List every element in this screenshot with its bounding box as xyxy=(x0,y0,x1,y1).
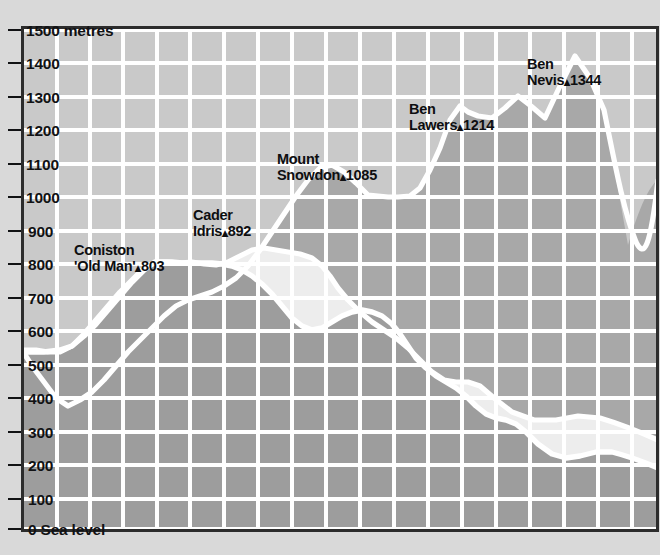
y-tick-700: 700 xyxy=(28,291,53,307)
y-tick-1200: 1200 xyxy=(26,123,60,139)
y-tick-800: 800 xyxy=(28,257,53,273)
peak-label-ben-lawers: Ben Lawers▴1214 xyxy=(409,102,494,134)
peak-name-line2-row: Lawers▴1214 xyxy=(409,118,494,134)
y-tick-100: 100 xyxy=(28,492,53,508)
y-tick-1400: 1400 xyxy=(26,56,60,72)
peak-name-line2: Idris xyxy=(193,223,222,239)
peak-label-mount-snowdon: Mount Snowdon▴1085 xyxy=(277,152,377,184)
peak-height: 1214 xyxy=(463,117,494,133)
y-tick-300: 300 xyxy=(28,425,53,441)
peak-height: 1344 xyxy=(570,72,601,88)
peak-name-line2-row: Idris▴892 xyxy=(193,224,251,240)
peak-label-ben-nevis: Ben Nevis▴1344 xyxy=(527,57,601,89)
peak-name-line2-row: Nevis▴1344 xyxy=(527,73,601,89)
peak-name-line2: 'Old Man' xyxy=(74,258,135,274)
y-tick-0-sea-level: 0 Sea level xyxy=(28,522,105,538)
peak-name-line2: Snowdon xyxy=(277,167,340,183)
y-tick-1300: 1300 xyxy=(26,90,60,106)
peak-label-cader-idris: Cader Idris▴892 xyxy=(193,208,251,240)
peak-name-line1: Ben xyxy=(409,102,494,118)
peak-label-coniston-old-man: Coniston 'Old Man'▴803 xyxy=(74,243,164,275)
peak-name-line1: Mount xyxy=(277,152,377,168)
figure-root: 1500 metres 1400 1300 1200 1100 1000 900… xyxy=(0,0,660,555)
peak-name-line2-row: Snowdon▴1085 xyxy=(277,168,377,184)
peak-height: 803 xyxy=(141,258,164,274)
peak-height: 1085 xyxy=(346,167,377,183)
y-tick-1500: 1500 metres xyxy=(26,23,113,39)
peak-name-line1: Coniston xyxy=(74,243,164,259)
y-tick-1100: 1100 xyxy=(26,157,59,173)
y-tick-1000: 1000 xyxy=(26,190,60,206)
y-tick-200: 200 xyxy=(28,458,53,474)
y-tick-900: 900 xyxy=(28,224,53,240)
peak-height: 892 xyxy=(228,223,251,239)
peak-name-line2: Lawers xyxy=(409,117,457,133)
y-tick-600: 600 xyxy=(28,324,53,340)
peak-name-line1: Cader xyxy=(193,208,251,224)
peak-name-line2-row: 'Old Man'▴803 xyxy=(74,259,164,275)
peak-name-line2: Nevis xyxy=(527,72,564,88)
y-tick-400: 400 xyxy=(28,391,53,407)
y-tick-500: 500 xyxy=(28,358,53,374)
y-axis-ticks xyxy=(8,30,22,529)
peak-name-line1: Ben xyxy=(527,57,601,73)
plot-area xyxy=(22,27,658,531)
